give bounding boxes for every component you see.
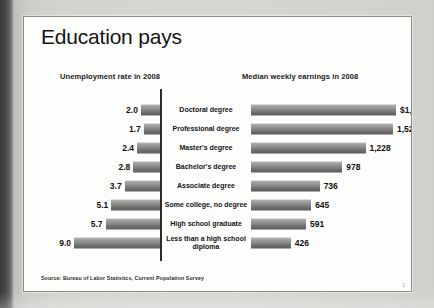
- chart-row: 2.0Doctoral degree$1,555: [24, 100, 411, 119]
- unemployment-value-label: 5.1: [96, 200, 108, 210]
- unemployment-bar: [137, 142, 160, 153]
- earnings-value-label: 978: [346, 162, 360, 172]
- category-label: Doctoral degree: [163, 105, 249, 114]
- unemployment-value-label: 2.4: [122, 143, 134, 153]
- earnings-bar: [251, 123, 393, 134]
- category-label: Less than a high school diploma: [163, 234, 249, 251]
- unemployment-bar: [133, 161, 160, 172]
- unemployment-bar: [106, 218, 160, 229]
- chart-row: 3.7Associate degree736: [24, 176, 411, 195]
- unemployment-value-label: 3.7: [110, 181, 122, 191]
- right-chart-heading: Median weekly earnings in 2008: [242, 72, 358, 81]
- earnings-bar: [251, 161, 342, 172]
- chart-row: 1.7Professional degree1,522: [24, 119, 411, 138]
- unemployment-bar: [111, 199, 160, 210]
- category-label: Associate degree: [163, 181, 249, 190]
- earnings-bar: [251, 142, 366, 153]
- presentation-slide: Education pays Unemployment rate in 2008…: [23, 16, 412, 292]
- category-label: Professional degree: [163, 124, 249, 133]
- unemployment-value-label: 1.7: [129, 124, 141, 134]
- earnings-value-label: 1,522: [397, 124, 412, 134]
- earnings-value-label: $1,555: [400, 105, 412, 115]
- earnings-value-label: 736: [324, 181, 338, 191]
- earnings-value-label: 426: [295, 238, 309, 248]
- chart-row: 2.4Master's degree1,228: [24, 138, 411, 157]
- education-pays-chart: 2.0Doctoral degree$1,5551.7Professional …: [24, 89, 411, 261]
- photo-frame: Education pays Unemployment rate in 2008…: [0, 0, 434, 308]
- earnings-bar: [251, 104, 396, 115]
- unemployment-value-label: 5.7: [91, 219, 103, 229]
- category-label: High school graduate: [163, 219, 249, 228]
- source-note: Source: Bureau of Labor Statistics, Curr…: [41, 275, 204, 281]
- unemployment-bar: [74, 237, 160, 248]
- chart-row: 5.7High school graduate591: [24, 214, 411, 233]
- earnings-value-label: 645: [315, 200, 329, 210]
- unemployment-bar: [125, 180, 160, 191]
- left-chart-heading: Unemployment rate in 2008: [60, 72, 160, 81]
- page-title: Education pays: [41, 25, 182, 49]
- slide-page-number: 1: [402, 282, 405, 288]
- earnings-value-label: 591: [310, 219, 324, 229]
- chart-row: 5.1Some college, no degree645: [24, 195, 411, 214]
- earnings-bar: [251, 180, 320, 191]
- earnings-bar: [251, 199, 311, 210]
- earnings-value-label: 1,228: [370, 143, 391, 153]
- unemployment-value-label: 2.8: [118, 162, 130, 172]
- unemployment-bar: [141, 104, 160, 115]
- category-label: Master's degree: [163, 143, 249, 152]
- chart-row: 9.0Less than a high school diploma426: [24, 233, 411, 252]
- earnings-bar: [251, 218, 306, 229]
- earnings-bar: [251, 237, 291, 248]
- unemployment-value-label: 9.0: [59, 238, 71, 248]
- category-label: Some college, no degree: [163, 200, 249, 209]
- chart-row: 2.8Bachelor's degree978: [24, 157, 411, 176]
- category-label: Bachelor's degree: [163, 162, 249, 171]
- unemployment-bar: [144, 123, 160, 134]
- unemployment-value-label: 2.0: [126, 105, 138, 115]
